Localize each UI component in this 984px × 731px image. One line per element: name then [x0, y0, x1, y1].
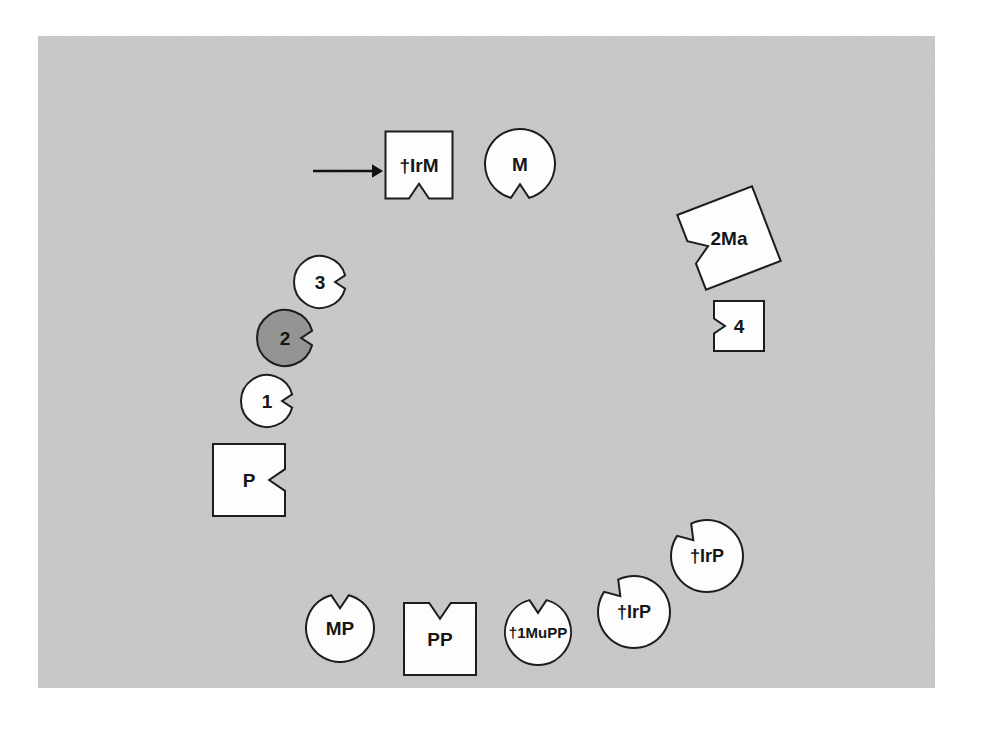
figure-root: †IrMM2Ma4321P†IrP†IrP†1MuPPPPMP	[0, 0, 984, 731]
shape-label-4: 4	[734, 316, 745, 337]
shape-label-1mupp: †1MuPP	[509, 624, 567, 641]
figure-canvas: †IrMM2Ma4321P†IrP†IrP†1MuPPPPMP	[0, 0, 984, 731]
shape-label-2ma: 2Ma	[711, 228, 748, 249]
shape-label-1: 1	[262, 391, 273, 412]
shape-label-2: 2	[280, 328, 291, 349]
shape-label-m: M	[512, 154, 528, 175]
gray-background-panel	[38, 36, 935, 688]
shape-label-pp: PP	[427, 629, 453, 650]
shape-label-mp: MP	[326, 618, 355, 639]
shape-label-3: 3	[315, 272, 326, 293]
shape-label-irp-lower: †IrP	[617, 602, 651, 622]
shape-label-irp-upper: †IrP	[690, 546, 724, 566]
shape-label-irm: †IrM	[399, 155, 438, 176]
shape-label-p: P	[243, 470, 256, 491]
